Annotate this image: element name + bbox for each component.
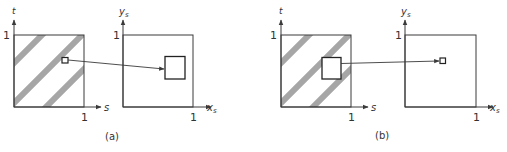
t-tick-1: 1 [270,29,277,42]
screen-square [405,35,476,107]
t-axis-label: t [279,6,283,16]
screen-pixel-box [440,58,446,64]
ys-tick-1: 1 [113,29,120,42]
caption-a: (a) [105,131,119,142]
texture-mapping-diagram: t s 1 1 ys xs 1 1 (a) [0,0,507,152]
caption-b: (b) [375,130,389,141]
panel-b: t s 1 1 ys xs 1 1 (b) [247,6,500,152]
s-tick-1: 1 [348,111,355,124]
s-tick-1: 1 [81,111,88,124]
xs-tick-1: 1 [190,111,197,124]
s-axis-label: s [104,102,109,113]
s-axis-label: s [371,102,376,113]
t-axis-label: t [12,6,16,16]
texture-sample-box [62,58,68,64]
ys-axis-label: ys [118,6,129,19]
mapping-arrow-b [341,61,439,64]
panel-a: t s 1 1 ys xs 1 1 (a) [0,6,217,152]
texture-sample-box [322,58,341,80]
ys-axis-label: ys [400,6,411,19]
xs-axis-label: xs [206,102,217,115]
t-tick-1: 1 [3,29,10,42]
xs-tick-1: 1 [473,111,480,124]
screen-pixel-box [165,57,185,80]
screen-space-b: ys xs 1 1 [395,6,500,124]
ys-tick-1: 1 [395,29,402,42]
xs-axis-label: xs [489,102,500,115]
screen-space-a: ys xs 1 1 [113,6,217,124]
